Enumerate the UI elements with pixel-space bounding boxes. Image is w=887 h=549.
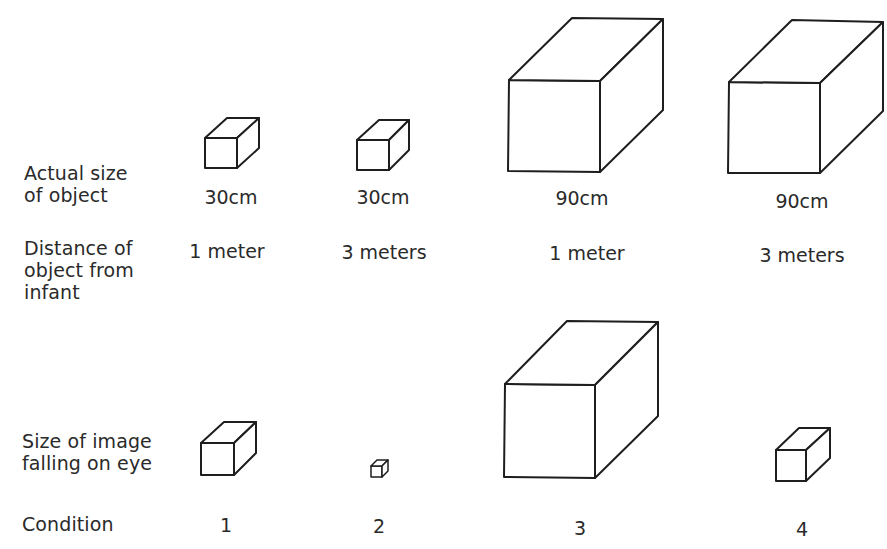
actual-size-condition-1: 30cm xyxy=(204,186,257,208)
cube-image-condition-4 xyxy=(776,428,830,481)
actual-size-condition-2: 30cm xyxy=(356,186,409,208)
cube-actual-condition-4 xyxy=(728,20,883,173)
cube-actual-condition-2 xyxy=(357,120,409,170)
cube-image-condition-1 xyxy=(201,422,256,475)
row-label-condition: Condition xyxy=(22,513,114,535)
cube-image-condition-2 xyxy=(371,460,388,477)
distance-condition-3: 1 meter xyxy=(549,242,624,264)
actual-size-condition-3: 90cm xyxy=(555,187,608,209)
row-label-distance: Distance of object from infant xyxy=(24,237,134,303)
condition-number-3: 3 xyxy=(574,517,586,539)
condition-number-2: 2 xyxy=(373,515,385,537)
distance-condition-1: 1 meter xyxy=(189,240,264,262)
condition-number-4: 4 xyxy=(796,518,808,540)
cube-actual-condition-1 xyxy=(205,118,259,168)
row-label-image-size: Size of image falling on eye xyxy=(22,430,152,474)
cube-actual-condition-3 xyxy=(508,18,663,172)
actual-size-condition-4: 90cm xyxy=(775,190,828,212)
distance-condition-2: 3 meters xyxy=(341,241,426,263)
row-label-actual-size: Actual size of object xyxy=(24,162,128,206)
condition-number-1: 1 xyxy=(220,514,232,536)
distance-condition-4: 3 meters xyxy=(759,244,844,266)
cube-image-condition-3 xyxy=(504,321,658,478)
